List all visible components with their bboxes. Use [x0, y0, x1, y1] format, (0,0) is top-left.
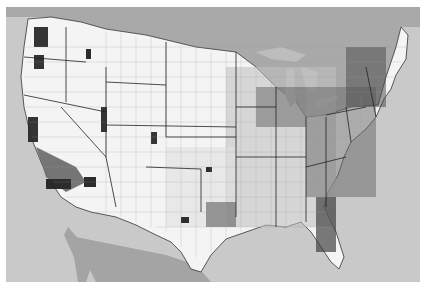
map-canvas [6, 7, 420, 282]
us-county-choropleth-map [6, 7, 420, 282]
map-frame [0, 0, 426, 289]
